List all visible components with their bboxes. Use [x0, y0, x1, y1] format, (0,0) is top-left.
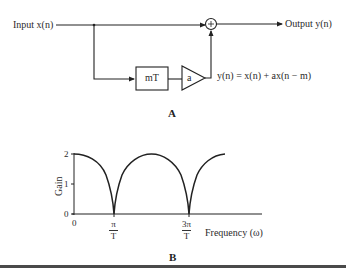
y-axis-label: Gain: [54, 177, 64, 196]
x-tick-pi-over-t: π T: [109, 220, 118, 241]
diagram-canvas: [0, 0, 346, 268]
x-tick-pi-denominator: T: [111, 232, 117, 241]
x-tick-0: 0: [72, 219, 77, 228]
gain-curve: [74, 154, 225, 214]
gain-block-label: a: [187, 73, 191, 83]
delay-branch-line: [94, 25, 134, 79]
y-tick-1: 1: [64, 180, 69, 189]
x-tick-3pi-denominator: T: [184, 232, 190, 241]
equation-label: y(n) = x(n) + ax(n − m): [217, 71, 311, 81]
x-tick-3pi-over-t: 3π T: [182, 220, 191, 241]
output-label: Output y(n): [285, 19, 332, 29]
input-label: Input x(n): [13, 20, 53, 30]
panel-label-a: A: [168, 108, 176, 119]
x-tick-pi-numerator: π: [111, 220, 116, 229]
panel-label-b: B: [169, 252, 176, 263]
delay-block-label: mT: [145, 73, 159, 83]
x-tick-3pi-numerator: 3π: [182, 220, 191, 229]
gain-amplifier-icon: [182, 66, 205, 90]
y-tick-2: 2: [64, 150, 69, 159]
gain-plot: [71, 153, 262, 217]
feedforward-line: [205, 31, 211, 78]
x-axis-label: Frequency (ω): [205, 228, 263, 238]
y-tick-0: 0: [64, 210, 69, 219]
